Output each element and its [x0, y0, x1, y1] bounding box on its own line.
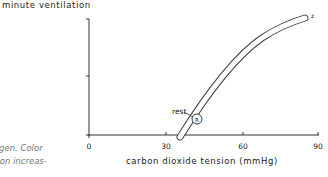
- caption-line-2: tion increas-: [0, 155, 47, 168]
- x-tick-label-30: 30: [161, 142, 171, 151]
- figure-caption-fragment: ygen. Color tion increas-: [0, 142, 47, 168]
- x-tick-label-90: 90: [313, 142, 323, 151]
- end-marker-label: z: [311, 12, 314, 19]
- axes: [86, 19, 319, 138]
- rest-marker-letter: R: [195, 117, 199, 123]
- x-axis-label: carbon dioxide tension (mmHg): [126, 156, 278, 166]
- x-tick-label-0: 0: [87, 142, 92, 151]
- caption-line-1: ygen. Color: [0, 142, 47, 155]
- x-tick-label-60: 60: [238, 142, 248, 151]
- rest-label: rest: [172, 107, 186, 116]
